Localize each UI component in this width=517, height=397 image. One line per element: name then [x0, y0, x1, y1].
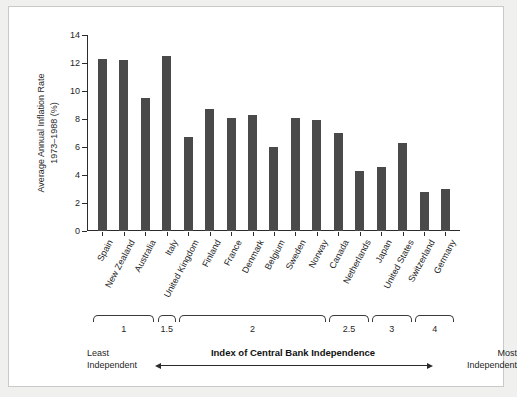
bar[interactable]	[377, 167, 386, 231]
y-axis-tick-label: 2	[75, 198, 80, 208]
x-axis-tick-mark	[102, 232, 103, 236]
index-bracket	[372, 315, 411, 322]
index-bracket-label: 4	[432, 324, 437, 334]
y-axis-tick-label: 12	[70, 58, 80, 68]
bar[interactable]	[420, 192, 429, 231]
x-axis-tick-mark	[360, 232, 361, 236]
index-bracket-band: 11.522.534	[87, 315, 460, 341]
index-bracket	[179, 315, 326, 322]
index-bracket-label: 1	[121, 324, 126, 334]
bar[interactable]	[248, 115, 257, 231]
bar[interactable]	[141, 98, 150, 231]
x-axis-tick-mark	[231, 232, 232, 236]
x-axis-category-label: Australia	[133, 238, 158, 274]
x-axis-tick-mark	[210, 232, 211, 236]
x-axis-tick-mark	[317, 232, 318, 236]
x-axis-category-label: France	[222, 238, 244, 267]
arrow-left-icon	[155, 363, 161, 369]
x-axis-tick-mark	[253, 232, 254, 236]
y-axis-label-line1: Average Annual Inflation Rate	[35, 74, 48, 193]
most-independent-line2: Independent	[467, 359, 517, 371]
x-axis-tick-mark	[338, 232, 339, 236]
bar[interactable]	[162, 56, 171, 231]
x-axis-category-label: Sweden	[284, 238, 308, 271]
x-axis-tick-mark	[381, 232, 382, 236]
bar[interactable]	[205, 109, 214, 231]
bar[interactable]	[334, 133, 343, 231]
x-axis-tick-mark	[274, 232, 275, 236]
index-bracket	[415, 315, 454, 322]
y-axis-tick-label: 0	[75, 226, 80, 236]
x-axis-tick-mark	[124, 232, 125, 236]
x-axis-category-label: Japan	[374, 238, 394, 264]
bar[interactable]	[98, 59, 107, 231]
index-bracket-label: 3	[389, 324, 394, 334]
x-axis-tick-mark	[167, 232, 168, 236]
index-bracket	[329, 315, 368, 322]
category-label-layer: SpainNew ZealandAustraliaItalyUnited Kin…	[87, 232, 460, 302]
x-axis-tick-mark	[145, 232, 146, 236]
bar[interactable]	[269, 147, 278, 231]
bar[interactable]	[355, 171, 364, 231]
bar[interactable]	[227, 118, 236, 231]
y-axis-tick-label: 10	[70, 86, 80, 96]
axis-caption: Least Independent Most Independent Index…	[87, 347, 487, 381]
x-axis-tick-mark	[295, 232, 296, 236]
index-bracket-label: 1.5	[160, 324, 173, 334]
bar[interactable]	[184, 137, 193, 231]
x-axis-title: Index of Central Bank Independence	[99, 347, 487, 358]
index-bracket-label: 2.5	[343, 324, 356, 334]
bar[interactable]	[119, 60, 128, 231]
x-axis-tick-mark	[424, 232, 425, 236]
independence-axis-arrow-line	[161, 365, 427, 366]
least-independent-line2: Independent	[87, 359, 137, 371]
x-axis-tick-mark	[403, 232, 404, 236]
chart-figure: Average Annual Inflation Rate 1973–1988 …	[8, 6, 504, 387]
x-axis-category-label: Spain	[96, 238, 116, 263]
bar[interactable]	[291, 118, 300, 231]
x-axis-category-label: Italy	[163, 238, 180, 257]
index-bracket	[93, 315, 154, 322]
y-axis-tick-label: 8	[75, 114, 80, 124]
y-axis-tick-label: 4	[75, 170, 80, 180]
x-axis-category-label: Canada	[327, 238, 351, 271]
y-axis-tick-label: 6	[75, 142, 80, 152]
x-axis-category-label: Finland	[200, 238, 223, 269]
y-axis-tick-label: 14	[70, 30, 80, 40]
index-bracket-label: 2	[250, 324, 255, 334]
x-axis-tick-mark	[445, 232, 446, 236]
bar[interactable]	[398, 143, 407, 231]
bar[interactable]	[312, 120, 321, 231]
y-axis-label-line2: 1973–1988 (%)	[48, 102, 61, 164]
bar[interactable]	[441, 189, 450, 231]
index-bracket	[158, 315, 176, 322]
plot-area	[87, 35, 459, 231]
y-axis-label: Average Annual Inflation Rate 1973–1988 …	[31, 35, 65, 231]
arrow-right-icon	[427, 363, 433, 369]
x-axis-tick-mark	[188, 232, 189, 236]
